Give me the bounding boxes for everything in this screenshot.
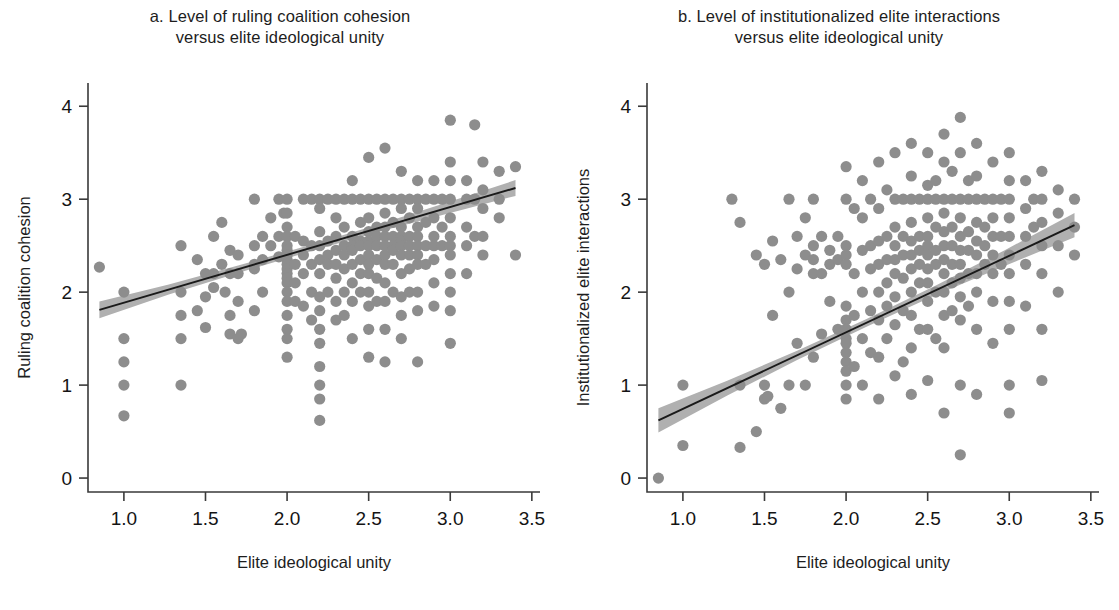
data-point <box>971 389 982 400</box>
data-point <box>330 296 341 307</box>
data-point <box>477 203 488 214</box>
panel-b: b. Level of institutionalized elite inte… <box>559 0 1119 610</box>
data-point <box>216 217 227 228</box>
data-point <box>832 231 843 242</box>
data-point <box>233 249 244 260</box>
data-point <box>857 287 868 298</box>
data-point <box>1004 296 1015 307</box>
data-point <box>412 175 423 186</box>
data-point <box>783 380 794 391</box>
data-point <box>922 277 933 288</box>
data-point <box>257 287 268 298</box>
data-point <box>461 222 472 233</box>
data-point <box>314 324 325 335</box>
data-point <box>494 212 505 223</box>
data-point <box>841 161 852 172</box>
data-point <box>971 324 982 335</box>
data-point <box>987 212 998 223</box>
data-point <box>1036 217 1047 228</box>
data-point <box>800 212 811 223</box>
data-point <box>265 212 276 223</box>
y-axis-label: Ruling coalition cohesion <box>15 196 33 379</box>
y-tick-label: 0 <box>620 468 631 489</box>
data-point <box>339 310 350 321</box>
data-point <box>955 112 966 123</box>
data-point <box>881 231 892 242</box>
data-point <box>849 361 860 372</box>
data-point <box>1036 194 1047 205</box>
data-point <box>445 249 456 260</box>
data-point <box>783 287 794 298</box>
y-tick-label: 3 <box>620 189 631 210</box>
data-point <box>437 222 448 233</box>
data-point <box>841 194 852 205</box>
data-point <box>677 380 688 391</box>
data-point <box>445 194 456 205</box>
y-tick-label: 1 <box>620 375 631 396</box>
data-point <box>947 166 958 177</box>
data-point <box>873 156 884 167</box>
data-point <box>314 380 325 391</box>
data-point <box>955 259 966 270</box>
data-point <box>971 249 982 260</box>
data-point <box>922 147 933 158</box>
data-point <box>987 249 998 260</box>
y-tick-label: 2 <box>620 282 631 303</box>
data-point <box>412 203 423 214</box>
scatter-points <box>94 115 521 426</box>
data-point <box>759 259 770 270</box>
data-point <box>849 203 860 214</box>
data-point <box>938 208 949 219</box>
data-point <box>889 222 900 233</box>
data-point <box>808 194 819 205</box>
data-point <box>494 166 505 177</box>
data-point <box>816 268 827 279</box>
data-point <box>922 324 933 335</box>
data-point <box>208 282 219 293</box>
data-point <box>314 415 325 426</box>
data-point <box>175 287 186 298</box>
data-point <box>379 277 390 288</box>
data-point <box>363 287 374 298</box>
x-tick-label: 2.5 <box>914 508 940 529</box>
data-point <box>987 338 998 349</box>
x-tick-label: 3.5 <box>1078 508 1104 529</box>
data-point <box>249 305 260 316</box>
y-tick-label: 4 <box>620 96 631 117</box>
x-tick-label: 3.5 <box>519 508 545 529</box>
x-tick-label: 3.0 <box>437 508 463 529</box>
data-point <box>792 338 803 349</box>
data-point <box>1020 175 1031 186</box>
data-point <box>979 240 990 251</box>
data-point <box>175 240 186 251</box>
data-point <box>469 119 480 130</box>
data-point <box>677 440 688 451</box>
y-axis-label: Institutionalized elite interactions <box>574 169 592 407</box>
figure-container: a. Level of ruling coalition cohesion ve… <box>0 0 1119 610</box>
data-point <box>816 231 827 242</box>
data-point <box>445 268 456 279</box>
data-point <box>824 296 835 307</box>
data-point <box>906 389 917 400</box>
data-point <box>767 310 778 321</box>
data-point <box>282 194 293 205</box>
data-point <box>118 380 129 391</box>
data-point <box>800 380 811 391</box>
panel-a: a. Level of ruling coalition cohesion ve… <box>0 0 560 610</box>
data-point <box>751 249 762 260</box>
data-point <box>947 305 958 316</box>
data-point <box>1036 324 1047 335</box>
data-point <box>808 352 819 363</box>
data-point <box>987 296 998 307</box>
data-point <box>428 277 439 288</box>
data-point <box>1069 194 1080 205</box>
data-point <box>955 212 966 223</box>
data-point <box>955 314 966 325</box>
data-point <box>314 338 325 349</box>
data-point <box>461 175 472 186</box>
data-point <box>412 356 423 367</box>
data-point <box>445 115 456 126</box>
data-point <box>1036 268 1047 279</box>
data-point <box>236 328 247 339</box>
data-point <box>922 296 933 307</box>
